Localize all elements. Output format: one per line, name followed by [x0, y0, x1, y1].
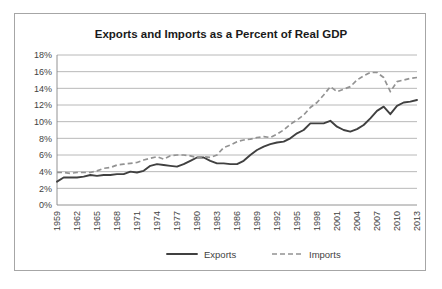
legend-label-exports[interactable]: Exports — [204, 249, 236, 260]
x-axis-tick-label: 1995 — [292, 211, 302, 231]
series-lines — [57, 73, 417, 182]
chart-title: Exports and Imports as a Percent of Real… — [95, 28, 348, 40]
x-axis-tick-label: 1968 — [112, 211, 122, 231]
y-axis-tick-label: 18% — [34, 50, 52, 60]
y-axis-tick-label: 2% — [39, 184, 52, 194]
x-axis-tick-labels: 1959196219651968197119741977198019831986… — [52, 211, 422, 231]
y-axis-tick-label: 16% — [34, 67, 52, 77]
y-axis-tick-label: 0% — [39, 200, 52, 210]
series-line-exports — [57, 100, 417, 182]
y-axis-tick-label: 8% — [39, 134, 52, 144]
y-axis-tick-label: 12% — [34, 100, 52, 110]
x-axis-tick-label: 1962 — [72, 211, 82, 231]
y-axis-tick-label: 10% — [34, 117, 52, 127]
x-axis-tick-label: 2007 — [372, 211, 382, 231]
series-line-imports — [57, 73, 417, 174]
x-axis-tick-label: 2004 — [352, 211, 362, 231]
chart-legend: ExportsImports — [167, 249, 341, 260]
x-axis-tick-label: 2010 — [392, 211, 402, 231]
chart-svg: Exports and Imports as a Percent of Real… — [15, 14, 427, 272]
x-axis-tick-label: 1974 — [152, 211, 162, 231]
legend-label-imports[interactable]: Imports — [309, 249, 341, 260]
y-axis-tick-label: 14% — [34, 84, 52, 94]
x-axis-tick-label: 1986 — [232, 211, 242, 231]
x-axis-tick-label: 1977 — [172, 211, 182, 231]
x-axis-tick-label: 1992 — [272, 211, 282, 231]
x-axis-tick-label: 1965 — [92, 211, 102, 231]
x-axis-tick-label: 1980 — [192, 211, 202, 231]
y-axis-tick-label: 4% — [39, 167, 52, 177]
y-axis-tick-label: 6% — [39, 150, 52, 160]
chart-container: Exports and Imports as a Percent of Real… — [14, 13, 426, 271]
x-axis-tick-label: 2013 — [412, 211, 422, 231]
x-axis-tick-label: 1959 — [52, 211, 62, 231]
y-axis-tick-labels: 0%2%4%6%8%10%12%14%16%18% — [34, 50, 52, 210]
x-axis-tick-label: 1983 — [212, 211, 222, 231]
x-axis-tick-label: 2001 — [332, 211, 342, 231]
x-axis-tick-label: 1998 — [312, 211, 322, 231]
x-axis-tick-label: 1989 — [252, 211, 262, 231]
x-axis-tick-label: 1971 — [132, 211, 142, 231]
gridlines — [57, 55, 417, 205]
